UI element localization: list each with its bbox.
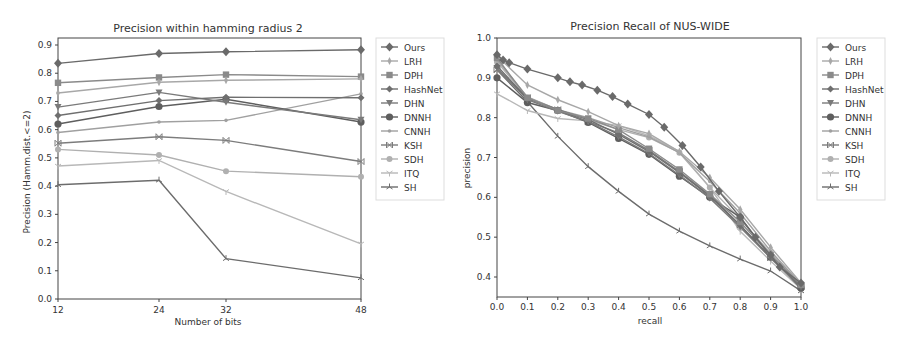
x-tick-label: 0.7 bbox=[703, 302, 717, 312]
y-tick-label: 0.8 bbox=[38, 68, 53, 78]
svg-text:SDH: SDH bbox=[404, 155, 423, 165]
x-tick-label: 0.9 bbox=[763, 302, 778, 312]
svg-text:DHN: DHN bbox=[845, 99, 865, 109]
chart-title: Precision Recall of NUS-WIDE bbox=[570, 20, 729, 33]
x-tick-label: 0.2 bbox=[551, 302, 565, 312]
svg-text:HashNet: HashNet bbox=[404, 85, 443, 95]
series-itq bbox=[55, 158, 364, 247]
x-tick-label: 0.3 bbox=[581, 302, 595, 312]
svg-text:SH: SH bbox=[404, 183, 416, 193]
precision-hamming-chart: Precision within hamming radius 2 0.00.1… bbox=[0, 0, 450, 342]
series-dhn bbox=[494, 65, 805, 291]
svg-text:LRH: LRH bbox=[404, 57, 422, 67]
x-axis-label: Number of bits bbox=[175, 317, 242, 327]
svg-text:SDH: SDH bbox=[845, 155, 864, 165]
x-tick-label: 24 bbox=[153, 305, 165, 315]
x-axis-label: recall bbox=[638, 316, 663, 326]
x-tick-label: 0.0 bbox=[490, 302, 505, 312]
y-tick-label: 0.4 bbox=[477, 272, 492, 282]
x-tick-label: 48 bbox=[355, 305, 367, 315]
plot-area bbox=[497, 38, 801, 297]
svg-text:DPH: DPH bbox=[404, 71, 423, 81]
legend: OursLRHDPHHashNetDHNDNNHCNNHKSHSDHITQSH bbox=[376, 38, 444, 200]
y-tick-label: 0.2 bbox=[38, 238, 52, 248]
svg-text:Ours: Ours bbox=[404, 43, 425, 53]
series-sh bbox=[494, 66, 804, 293]
series-lrh bbox=[56, 75, 363, 97]
precision-hamming-plot: Precision within hamming radius 2 0.00.1… bbox=[0, 0, 450, 342]
precision-recall-plot: Precision Recall of NUS-WIDE 0.40.50.60.… bbox=[450, 0, 909, 342]
x-tick-label: 0.1 bbox=[520, 302, 534, 312]
y-tick-label: 0.7 bbox=[38, 96, 52, 106]
svg-text:CNNH: CNNH bbox=[404, 127, 431, 137]
svg-text:DPH: DPH bbox=[845, 71, 864, 81]
y-tick-label: 0.9 bbox=[477, 73, 492, 83]
svg-text:DNNH: DNNH bbox=[404, 113, 431, 123]
y-tick-label: 0.6 bbox=[38, 125, 53, 135]
series-dph bbox=[494, 55, 804, 288]
svg-text:HashNet: HashNet bbox=[845, 85, 884, 95]
x-tick-label: 12 bbox=[52, 305, 63, 315]
series-ours bbox=[493, 50, 805, 287]
svg-text:LRH: LRH bbox=[845, 57, 863, 67]
y-tick-label: 0.0 bbox=[38, 294, 53, 304]
y-tick-label: 0.3 bbox=[38, 209, 52, 219]
x-tick-label: 1.0 bbox=[794, 302, 809, 312]
chart-title: Precision within hamming radius 2 bbox=[113, 22, 303, 35]
y-tick-label: 0.8 bbox=[477, 113, 492, 123]
x-tick-label: 0.4 bbox=[611, 302, 626, 312]
y-tick-label: 0.1 bbox=[38, 266, 52, 276]
svg-text:CNNH: CNNH bbox=[845, 127, 872, 137]
x-tick-label: 0.8 bbox=[733, 302, 748, 312]
series-dhn bbox=[55, 89, 365, 123]
y-axis-label: Precision (Hamm.dist.<=2) bbox=[22, 111, 32, 234]
series-ours bbox=[54, 45, 365, 68]
y-tick-label: 0.7 bbox=[477, 153, 491, 163]
svg-text:DHN: DHN bbox=[404, 99, 424, 109]
series-dnnh bbox=[493, 74, 804, 292]
svg-text:KSH: KSH bbox=[845, 141, 863, 151]
x-tick-label: 32 bbox=[220, 305, 231, 315]
series-hashnet bbox=[494, 62, 805, 289]
series-ksh bbox=[494, 67, 804, 290]
svg-text:KSH: KSH bbox=[404, 141, 422, 151]
y-tick-label: 0.5 bbox=[477, 232, 491, 242]
legend: OursLRHDPHHashNetDHNDNNHCNNHKSHSDHITQSH bbox=[817, 38, 885, 200]
y-tick-label: 0.6 bbox=[477, 192, 492, 202]
series-sh bbox=[55, 177, 364, 280]
y-tick-label: 0.5 bbox=[38, 153, 52, 163]
svg-text:Ours: Ours bbox=[845, 43, 866, 53]
x-tick-label: 0.6 bbox=[672, 302, 687, 312]
svg-text:ITQ: ITQ bbox=[845, 169, 860, 179]
series-itq bbox=[494, 92, 804, 293]
series-ksh bbox=[55, 134, 364, 165]
y-axis-label: precision bbox=[462, 148, 472, 189]
y-tick-label: 1.0 bbox=[477, 33, 492, 43]
svg-text:ITQ: ITQ bbox=[404, 169, 419, 179]
svg-text:SH: SH bbox=[845, 183, 857, 193]
series-lrh bbox=[495, 52, 803, 287]
series-sdh bbox=[494, 59, 804, 288]
svg-text:DNNH: DNNH bbox=[845, 113, 872, 123]
y-tick-label: 0.4 bbox=[38, 181, 53, 191]
plot-area bbox=[58, 38, 361, 299]
precision-recall-chart: Precision Recall of NUS-WIDE 0.40.50.60.… bbox=[450, 0, 909, 342]
x-tick-label: 0.5 bbox=[642, 302, 656, 312]
y-tick-label: 0.9 bbox=[38, 40, 53, 50]
